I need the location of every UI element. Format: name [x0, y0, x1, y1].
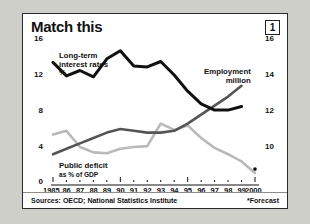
x-axis-tick-98: 98 [224, 186, 232, 195]
annotation-employment: Employment million [204, 68, 251, 85]
page-root: Match this 1 16 12 8 4 0 16 14 12 10 [0, 0, 310, 224]
x-axis-tick-90: 90 [116, 186, 124, 195]
x-axis-tick-95: 95 [184, 186, 192, 195]
annotation-interest-rates: Long-term interest rates % [59, 52, 108, 78]
x-axis-tick-88: 88 [89, 186, 97, 195]
x-axis-tick-89: 89 [103, 186, 111, 195]
page-title: Match this [31, 18, 102, 35]
annotation-employment-line1: Employment [204, 67, 251, 76]
y-axis-right-tick-10: 10 [265, 142, 283, 151]
annotation-public-deficit: Public deficit as % of GDP [59, 162, 108, 179]
annotation-employment-line2: million [226, 76, 251, 85]
annotation-interest-line1: Long-term [59, 51, 98, 60]
y-axis-right-tick-16: 16 [265, 34, 283, 43]
annotation-interest-line2: interest rates [59, 60, 108, 69]
x-axis-tick-96: 96 [197, 186, 205, 195]
x-axis-tick-1985: 1985 [43, 186, 60, 195]
forecast-note: *Forecast [247, 197, 279, 204]
y-axis-left-tick-16: 16 [25, 34, 43, 43]
y-axis-left-tick-8: 8 [25, 106, 43, 115]
x-axis-tick-94: 94 [170, 186, 178, 195]
y-axis-right-tick-14: 14 [265, 70, 283, 79]
x-axis-tick-2000: 2000 [245, 186, 262, 195]
y-axis-left-tick-0: 0 [25, 177, 43, 186]
annotation-interest-line3: % [59, 68, 66, 77]
footer-divider [23, 192, 287, 193]
y-axis-right-tick-12: 12 [265, 106, 283, 115]
chart-card: Match this 1 16 12 8 4 0 16 14 12 10 [22, 13, 288, 209]
y-axis-left-tick-4: 4 [25, 142, 43, 151]
x-axis-tick-92: 92 [143, 186, 151, 195]
x-axis-tick-91: 91 [130, 186, 138, 195]
source-note: Sources: OECD; National Statistics Insti… [31, 197, 177, 204]
x-axis-tick-93: 93 [157, 186, 165, 195]
annotation-deficit-line1: Public deficit [59, 161, 108, 170]
x-axis-tick-87: 87 [76, 186, 84, 195]
annotation-deficit-line2: as % of GDP [59, 171, 98, 178]
y-axis-left-tick-12: 12 [25, 70, 43, 79]
x-axis-tick-97: 97 [211, 186, 219, 195]
figure-number-badge: 1 [265, 20, 280, 35]
x-axis-tick-86: 86 [62, 186, 70, 195]
